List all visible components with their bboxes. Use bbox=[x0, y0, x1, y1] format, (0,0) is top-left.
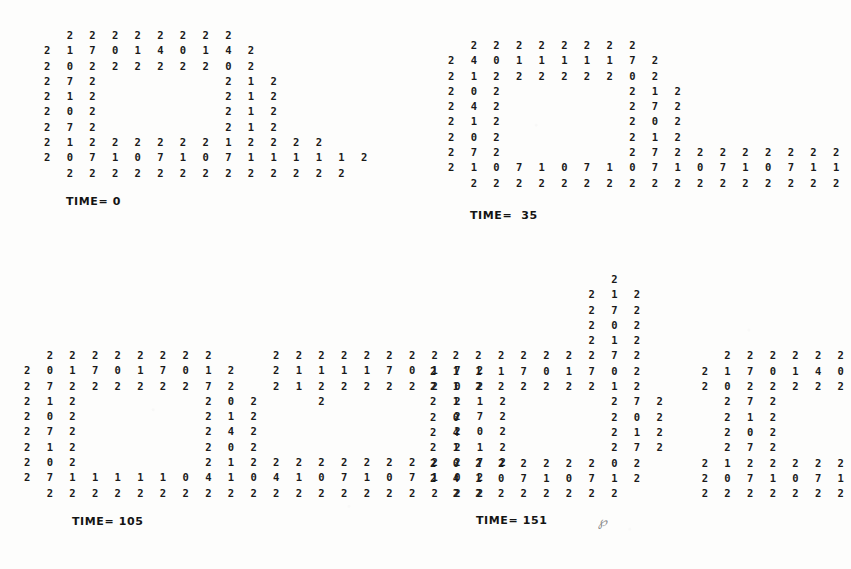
panel-time-151: 2 2 1 2 2 7 2 2 0 2 2 1 2 2 2 2 2 2 2 2 … bbox=[430, 272, 851, 527]
time-label-0: TIME= 0 bbox=[66, 195, 372, 208]
panel-time-0: 2 2 2 2 2 2 2 2 2 1 7 0 1 4 0 1 4 2 2 0 … bbox=[44, 28, 372, 208]
panel-time-35: 2 2 2 2 2 2 2 2 2 4 0 1 1 1 1 1 7 2 2 1 … bbox=[448, 38, 851, 222]
numeric-grid-time-35: 2 2 2 2 2 2 2 2 2 4 0 1 1 1 1 1 7 2 2 1 … bbox=[448, 38, 851, 191]
stray-ink-mark: ℘ bbox=[598, 514, 614, 528]
time-label-151: TIME= 151 bbox=[476, 514, 851, 527]
numeric-grid-time-0: 2 2 2 2 2 2 2 2 2 1 7 0 1 4 0 1 4 2 2 0 … bbox=[44, 28, 372, 181]
numeric-grid-time-151: 2 2 1 2 2 7 2 2 0 2 2 1 2 2 2 2 2 2 2 2 … bbox=[430, 272, 851, 501]
time-label-35: TIME= 35 bbox=[470, 209, 851, 222]
